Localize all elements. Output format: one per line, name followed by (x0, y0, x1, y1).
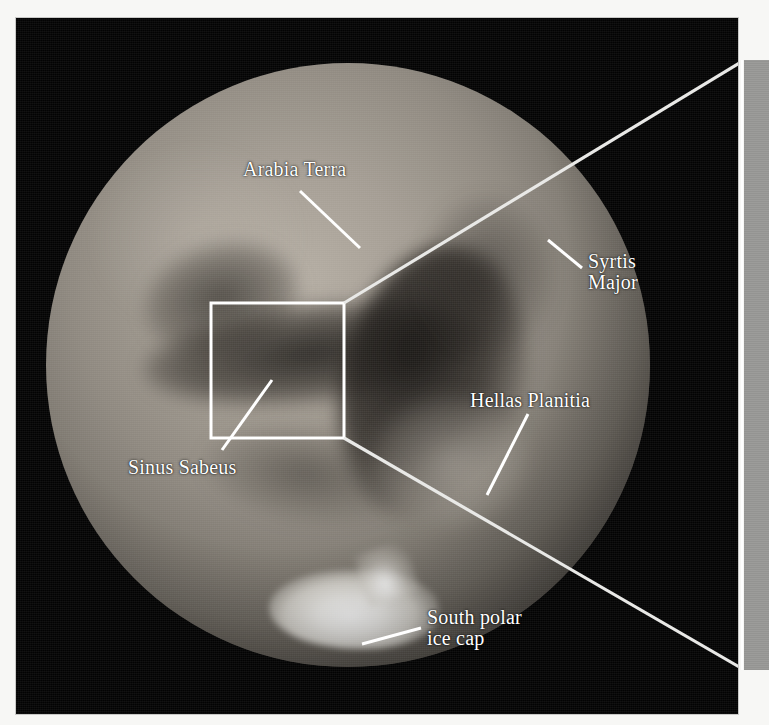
inset-panel-edge (744, 60, 769, 670)
leader-line-syrtis-major (548, 240, 582, 268)
label-sinus-sabeus: Sinus Sabeus (128, 457, 237, 478)
mars-photograph: Arabia Terra Syrtis Major Hellas Planiti… (16, 18, 738, 714)
annotation-svg (16, 18, 738, 714)
detail-region-box (211, 303, 344, 438)
label-syrtis-major: Syrtis Major (588, 251, 638, 293)
leader-line-arabia-terra (300, 191, 360, 248)
label-south-polar-ice-cap: South polar ice cap (427, 607, 522, 649)
figure-page: Arabia Terra Syrtis Major Hellas Planiti… (0, 0, 769, 725)
label-arabia-terra: Arabia Terra (243, 159, 346, 180)
annotation-layer: Arabia Terra Syrtis Major Hellas Planiti… (16, 18, 738, 714)
leader-line-hellas-planitia (487, 414, 528, 495)
callout-line-upper (344, 62, 738, 303)
leader-line-south-polar-ice-cap (362, 628, 421, 644)
label-hellas-planitia: Hellas Planitia (470, 390, 590, 411)
